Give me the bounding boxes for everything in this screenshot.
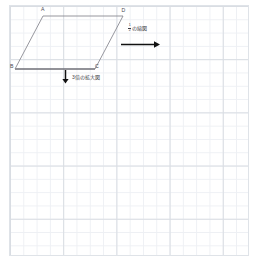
fraction-denominator: 2 (128, 29, 131, 33)
annotation-enlargement-text: 3倍の拡大図 (72, 74, 100, 80)
graph-paper-grid (9, 5, 249, 256)
fraction-one-half: 1 2 (128, 24, 131, 32)
vertex-label-c: C (95, 64, 99, 69)
worksheet-canvas: A D C B 1 2 の縮図 3倍の拡大図 (0, 0, 259, 273)
annotation-enlargement: 3倍の拡大図 (72, 75, 100, 80)
annotation-reduction-row: 1 2 の縮図 (128, 24, 147, 32)
vertex-label-a: A (41, 7, 44, 12)
annotation-reduction: 1 2 の縮図 (128, 22, 147, 32)
vertex-label-b: B (10, 64, 13, 69)
annotation-reduction-text: の縮図 (132, 26, 147, 31)
vertex-label-d: D (122, 8, 126, 13)
